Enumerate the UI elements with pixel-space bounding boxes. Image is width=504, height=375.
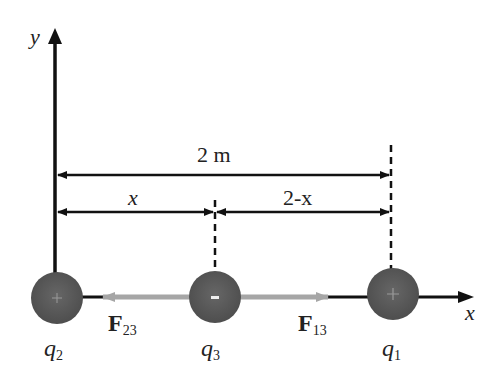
- charge-name: q: [44, 335, 56, 361]
- charge-label-q2: q2: [44, 335, 63, 364]
- charge-subscript: 3: [213, 348, 220, 363]
- charge-subscript: 2: [56, 348, 63, 363]
- charge-name: q: [382, 335, 394, 361]
- diagram-canvas: [0, 0, 504, 375]
- dimension-left-label: x: [128, 185, 138, 211]
- force-subscript: 13: [313, 323, 327, 338]
- force-label-f23: F23: [108, 310, 137, 339]
- charge-q3: [189, 271, 241, 323]
- charge-label-q1: q1: [382, 335, 401, 364]
- charge-name: q: [201, 335, 213, 361]
- force-label-f13: F13: [298, 310, 327, 339]
- force-subscript: 23: [123, 323, 137, 338]
- charge-subscript: 1: [394, 348, 401, 363]
- charge-q2: [31, 272, 83, 324]
- x-axis-label: x: [465, 300, 475, 326]
- charge-label-q3: q3: [201, 335, 220, 364]
- force-name: F: [298, 310, 313, 336]
- dimension-total-label: 2 m: [197, 142, 231, 168]
- charge-q1: [367, 268, 419, 320]
- force-name: F: [108, 310, 123, 336]
- y-axis: [48, 28, 62, 295]
- y-axis-label: y: [30, 24, 40, 50]
- dimension-right-label: 2-x: [283, 185, 312, 211]
